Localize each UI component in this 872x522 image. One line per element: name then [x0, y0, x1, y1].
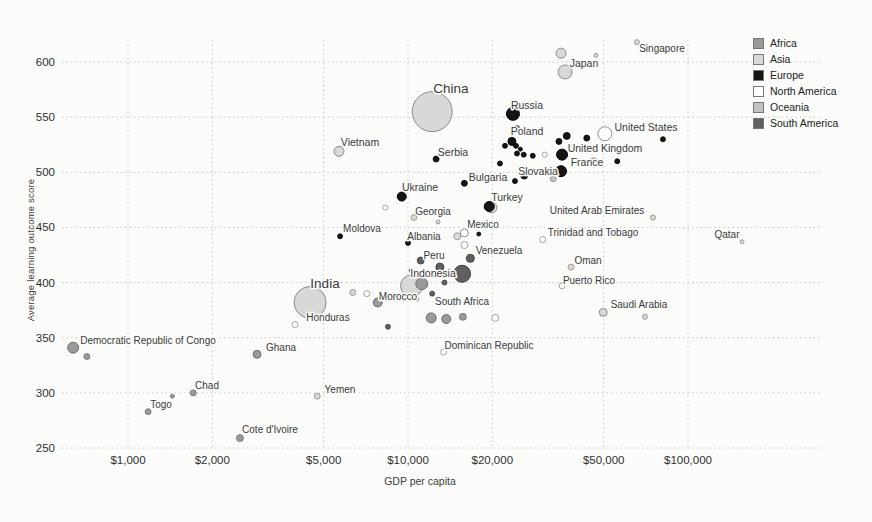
x-tick-label: $10,000: [387, 454, 429, 466]
point-unlabeled[interactable]: [416, 278, 428, 290]
point-united-kingdom[interactable]: [557, 149, 568, 160]
point-oman[interactable]: [568, 264, 574, 270]
x-tick-label: $50,000: [583, 454, 625, 466]
point-cote-d-ivoire[interactable]: [236, 435, 243, 442]
point-unlabeled[interactable]: [512, 179, 517, 184]
point-moldova[interactable]: [338, 234, 343, 239]
legend: AfricaAsiaEuropeNorth AmericaOceaniaSout…: [753, 35, 838, 131]
point-china[interactable]: [412, 92, 452, 132]
x-tick-label: $1,000: [110, 454, 145, 466]
point-unlabeled[interactable]: [642, 314, 647, 319]
point-label: Oman: [574, 255, 601, 266]
legend-item-asia[interactable]: Asia: [753, 51, 838, 67]
point-unlabeled[interactable]: [497, 161, 502, 166]
point-unlabeled[interactable]: [513, 143, 518, 148]
point-label: Chad: [195, 380, 219, 391]
legend-swatch-icon: [753, 118, 764, 129]
point-unlabeled[interactable]: [556, 48, 566, 58]
legend-item-africa[interactable]: Africa: [753, 35, 838, 51]
x-axis-title: GDP per capita: [384, 475, 456, 487]
point-label: Saudi Arabia: [611, 299, 668, 310]
point-unlabeled[interactable]: [660, 137, 665, 142]
point-honduras[interactable]: [292, 322, 298, 328]
point-mexico[interactable]: [460, 229, 468, 237]
legend-label: North America: [770, 85, 837, 97]
point-bulgaria[interactable]: [461, 180, 467, 186]
legend-item-europe[interactable]: Europe: [753, 67, 838, 83]
point-label: Morocco: [379, 291, 418, 302]
y-tick-label: 450: [36, 221, 55, 233]
point-yemen[interactable]: [314, 393, 320, 399]
point-unlabeled[interactable]: [530, 153, 535, 158]
point-label: Singapore: [639, 43, 685, 54]
point-unlabeled[interactable]: [521, 152, 526, 157]
point-label: Honduras: [306, 312, 349, 323]
point-unlabeled[interactable]: [615, 159, 620, 164]
point-south-africa[interactable]: [442, 314, 451, 323]
point-unlabeled[interactable]: [350, 290, 356, 296]
legend-label: Europe: [770, 69, 804, 81]
legend-swatch-icon: [753, 102, 764, 113]
point-unlabeled[interactable]: [454, 233, 461, 240]
point-saudi-arabia[interactable]: [599, 308, 607, 316]
legend-label: Asia: [770, 53, 790, 65]
point-ghana[interactable]: [253, 350, 261, 358]
point-unlabeled[interactable]: [518, 147, 522, 151]
point-label: Trinidad and Tobago: [548, 227, 639, 238]
point-democratic-republic-of-congo[interactable]: [68, 342, 79, 353]
point-unlabeled[interactable]: [542, 152, 547, 157]
point-unlabeled[interactable]: [492, 314, 499, 321]
point-label: Vietnam: [341, 136, 380, 148]
point-label: Bulgaria: [469, 171, 508, 183]
point-label: India: [310, 276, 340, 291]
point-unlabeled[interactable]: [436, 220, 440, 224]
point-label: Puerto Rico: [563, 275, 616, 286]
point-vietnam[interactable]: [334, 146, 344, 156]
point-label: United Kingdom: [568, 142, 643, 154]
point-ukraine[interactable]: [397, 192, 406, 201]
point-label: Serbia: [438, 146, 469, 158]
point-trinidad-and-tobago[interactable]: [540, 237, 546, 243]
point-label: Slovakia: [518, 165, 558, 177]
point-label: Japan: [570, 57, 599, 69]
point-togo[interactable]: [145, 409, 151, 415]
scatter-plot-canvas: 250300350400450500550600$1,000$2,000$5,0…: [0, 0, 872, 522]
legend-item-south-america[interactable]: South America: [753, 115, 838, 131]
legend-item-north-america[interactable]: North America: [753, 83, 838, 99]
point-unlabeled[interactable]: [426, 313, 436, 323]
point-label: Cote d'Ivoire: [242, 424, 298, 435]
x-tick-label: $5,000: [306, 454, 341, 466]
point-united-states[interactable]: [598, 127, 612, 141]
point-label: United States: [614, 121, 677, 133]
point-chad[interactable]: [190, 390, 196, 396]
point-label: China: [433, 81, 469, 96]
point-unlabeled[interactable]: [514, 151, 519, 156]
point-unlabeled[interactable]: [442, 280, 447, 285]
point-label: Dominican Republic: [445, 340, 534, 351]
x-tick-label: $20,000: [471, 454, 513, 466]
point-unlabeled[interactable]: [454, 265, 471, 282]
point-unlabeled[interactable]: [550, 176, 556, 182]
point-unlabeled[interactable]: [502, 143, 507, 148]
point-unlabeled[interactable]: [563, 132, 570, 139]
point-unlabeled[interactable]: [556, 138, 562, 144]
point-venezuela[interactable]: [466, 254, 474, 262]
point-unlabeled[interactable]: [430, 291, 435, 296]
point-unlabeled[interactable]: [461, 242, 468, 249]
point-label: Yemen: [325, 384, 356, 395]
legend-item-oceania[interactable]: Oceania: [753, 99, 838, 115]
point-unlabeled[interactable]: [477, 232, 481, 236]
point-unlabeled[interactable]: [385, 324, 390, 329]
point-united-arab-emirates[interactable]: [651, 215, 656, 220]
point-unlabeled[interactable]: [584, 135, 590, 141]
point-qatar[interactable]: [740, 240, 744, 244]
point-label: Togo: [150, 399, 172, 410]
point-turkey[interactable]: [484, 201, 494, 211]
point-unlabeled[interactable]: [84, 354, 90, 360]
point-unlabeled[interactable]: [383, 205, 388, 210]
point-unlabeled[interactable]: [364, 291, 370, 297]
legend-swatch-icon: [753, 54, 764, 65]
y-tick-label: 400: [36, 277, 55, 289]
point-unlabeled[interactable]: [459, 313, 466, 320]
point-label: Russia: [511, 99, 543, 111]
